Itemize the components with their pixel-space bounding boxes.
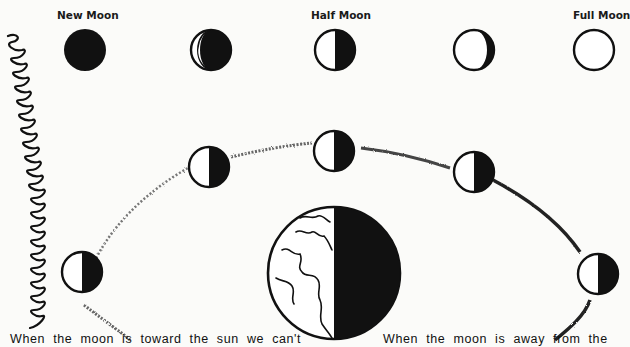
- orbit-moon-upper-right: [454, 152, 494, 192]
- orbit-moon-left: [62, 252, 102, 292]
- caption-right: When the moon is away from the: [383, 332, 608, 346]
- new-moon-icon: [64, 29, 106, 71]
- full-moon-icon: [574, 30, 614, 70]
- sun-rays-squiggle: [8, 35, 45, 328]
- waxing-crescent-icon: [191, 30, 231, 70]
- orbit-moon-right: [578, 254, 618, 294]
- half-moon-icon: [315, 30, 355, 70]
- caption-left: When the moon is toward the sun we can't: [10, 332, 301, 346]
- orbit-moon-top: [314, 131, 354, 171]
- orbit-moon-upper-left: [189, 147, 229, 187]
- waxing-gibbous-icon: [454, 30, 494, 70]
- earth-icon: [268, 207, 400, 339]
